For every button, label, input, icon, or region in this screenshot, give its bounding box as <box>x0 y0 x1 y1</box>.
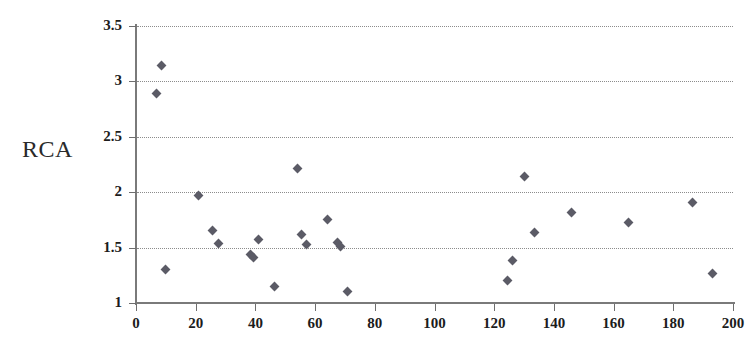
x-axis-tick <box>136 304 137 311</box>
x-axis-tick-label: 160 <box>589 315 639 332</box>
x-axis-tick-label: 180 <box>648 315 698 332</box>
x-axis-tick <box>375 304 376 311</box>
y-axis-tick-label: 2 <box>78 183 122 200</box>
y-axis-tick-label: 3.5 <box>78 17 122 34</box>
x-axis-tick <box>196 304 197 311</box>
x-axis-tick-label: 60 <box>290 315 340 332</box>
x-axis-tick <box>315 304 316 311</box>
x-axis-tick-label: 20 <box>171 315 221 332</box>
x-axis-tick-label: 0 <box>111 315 161 332</box>
y-axis-tick-label: 3 <box>78 72 122 89</box>
x-axis-tick <box>435 304 436 311</box>
x-axis-tick-label: 140 <box>529 315 579 332</box>
x-axis-tick-label: 120 <box>469 315 519 332</box>
y-axis-tick <box>129 81 136 82</box>
x-axis-tick <box>255 304 256 311</box>
x-axis-tick <box>733 304 734 311</box>
y-axis-tick <box>129 26 136 27</box>
y-axis-tick <box>129 192 136 193</box>
y-axis-tick-label: 1.5 <box>78 239 122 256</box>
x-axis-tick-label: 40 <box>230 315 280 332</box>
x-axis-tick <box>614 304 615 311</box>
x-axis-tick-label: 200 <box>708 315 746 332</box>
scatter-chart-figure: RCA 11.522.533.5 02040608010012014016018… <box>0 0 746 362</box>
x-axis-tick <box>554 304 555 311</box>
x-axis-tick <box>673 304 674 311</box>
x-axis-tick-label: 80 <box>350 315 400 332</box>
plot-area <box>136 26 733 303</box>
y-axis-tick <box>129 137 136 138</box>
x-axis-tick <box>494 304 495 311</box>
y-axis-tick-label: 2.5 <box>78 128 122 145</box>
y-axis-tick <box>129 248 136 249</box>
x-axis-tick-label: 100 <box>410 315 460 332</box>
y-axis-tick-label: 1 <box>78 294 122 311</box>
y-axis-tick <box>129 303 136 304</box>
